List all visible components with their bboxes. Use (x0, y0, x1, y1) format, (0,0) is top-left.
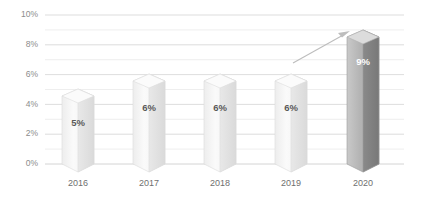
bar-value-label: 6% (213, 102, 227, 113)
bar-value-label: 6% (284, 102, 298, 113)
x-tick-label-2020: 2020 (353, 178, 373, 188)
bar-2019[interactable]: 6% (275, 74, 307, 172)
chart-canvas: 10% 8% 6% 4% 2% 0% 5% 6% 6% (0, 0, 428, 201)
bar-2020[interactable]: 9% (347, 30, 379, 172)
bar-side-face (363, 30, 379, 172)
y-tick-label: 6% (26, 69, 39, 79)
x-axis-tick-labels: 2016 2017 2018 2019 2020 (68, 178, 373, 188)
bar-2016[interactable]: 5% (62, 89, 94, 172)
x-tick-label-2016: 2016 (68, 178, 88, 188)
bar-value-label: 6% (142, 102, 156, 113)
bar-2017[interactable]: 6% (133, 74, 165, 172)
bar-value-label: 9% (356, 56, 370, 67)
y-tick-label: 8% (26, 39, 39, 49)
y-tick-label: 2% (26, 128, 39, 138)
y-tick-label: 4% (26, 99, 39, 109)
column-chart: 10% 8% 6% 4% 2% 0% 5% 6% 6% (0, 0, 428, 201)
growth-arrow-line (293, 34, 345, 63)
bar-side-face (291, 74, 307, 172)
x-tick-label-2017: 2017 (139, 178, 159, 188)
bar-side-face (149, 74, 165, 172)
growth-arrow-annotation (293, 31, 350, 63)
bar-2018[interactable]: 6% (204, 74, 236, 172)
y-tick-label: 10% (21, 9, 38, 19)
bar-value-label: 5% (71, 117, 85, 128)
y-tick-label: 0% (26, 158, 39, 168)
x-tick-label-2019: 2019 (281, 178, 301, 188)
bar-side-face (220, 74, 236, 172)
x-tick-label-2018: 2018 (210, 178, 230, 188)
y-axis-tick-labels: 10% 8% 6% 4% 2% 0% (21, 9, 38, 168)
